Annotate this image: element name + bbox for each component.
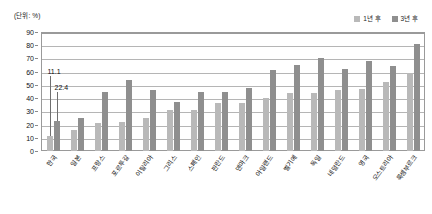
- x-axis-tick-label: 네덜란드: [327, 154, 346, 177]
- x-axis-tick-label: 덴마크: [235, 154, 251, 172]
- y-axis-tick: [35, 125, 38, 126]
- x-axis-tick-label: 벨기에: [283, 154, 299, 172]
- x-axis-label-cell: 그리스: [161, 152, 185, 212]
- y-axis-tick: [35, 138, 38, 139]
- x-axis-label-cell: 아일랜드: [257, 152, 281, 212]
- y-axis-tick-label: 90: [26, 29, 34, 36]
- x-axis-tick-label: 독일: [310, 154, 322, 168]
- y-axis-tick: [35, 45, 38, 46]
- y-axis-tick: [35, 85, 38, 86]
- x-axis-label-cell: 스페인: [185, 152, 209, 212]
- y-axis: 0102030405060708090: [0, 32, 38, 151]
- square-swatch-icon: [392, 16, 398, 22]
- y-axis-tick: [35, 72, 38, 73]
- y-axis-tick-label: 30: [26, 108, 34, 115]
- y-axis-tick-label: 50: [26, 81, 34, 88]
- x-axis-tick-label: 이탈리아: [135, 154, 154, 177]
- x-axis-label-cell: 한국: [41, 152, 65, 212]
- y-axis-tick-label: 0: [30, 148, 34, 155]
- gridline: [42, 99, 424, 100]
- chart-legend: 1년 후 3년 후: [354, 16, 418, 23]
- x-axis-label-cell: 룩셈부르크: [401, 152, 425, 212]
- x-axis-tick-label: 프랑스: [91, 154, 107, 172]
- x-axis-label-cell: 포르투갈: [113, 152, 137, 212]
- x-axis-label-cell: 이탈리아: [137, 152, 161, 212]
- y-axis-tick-label: 70: [26, 55, 34, 62]
- legend-item-series-1: 1년 후: [354, 16, 380, 23]
- x-axis-tick-label: 스페인: [187, 154, 203, 172]
- gridline: [42, 139, 424, 140]
- y-axis-tick: [35, 98, 38, 99]
- x-axis-tick-label: 핀란드: [211, 154, 227, 172]
- y-axis-tick-label: 80: [26, 42, 34, 49]
- x-axis-label-cell: 덴마크: [233, 152, 257, 212]
- x-axis-tick-label: 그리스: [163, 154, 179, 172]
- x-axis-tick-label: 아일랜드: [255, 154, 274, 177]
- gridline: [42, 126, 424, 127]
- plot-area: [41, 32, 425, 151]
- legend-label-series-2: 3년 후: [401, 16, 418, 23]
- y-axis-tick: [35, 58, 38, 59]
- gridline: [42, 33, 424, 34]
- gridline: [42, 59, 424, 60]
- x-axis-label-cell: 프랑스: [89, 152, 113, 212]
- square-swatch-icon: [354, 16, 360, 22]
- x-axis-label-cell: 영국: [353, 152, 377, 212]
- unit-label: (단위: %): [14, 10, 40, 20]
- x-axis-label-cell: 네덜란드: [329, 152, 353, 212]
- y-axis-tick-label: 40: [26, 95, 34, 102]
- x-axis-tick-label: 영국: [358, 154, 370, 168]
- y-axis-tick: [35, 32, 38, 33]
- data-label-annotation: 22.4: [55, 84, 69, 91]
- x-axis-tick-label: 일본: [70, 154, 82, 168]
- y-axis-tick-label: 20: [26, 121, 34, 128]
- annotation-leader-line: [50, 76, 51, 136]
- gridline: [42, 73, 424, 74]
- x-axis-label-cell: 벨기에: [281, 152, 305, 212]
- legend-label-series-1: 1년 후: [363, 16, 380, 23]
- x-axis-tick-label: 한국: [46, 154, 58, 168]
- y-axis-tick-label: 60: [26, 68, 34, 75]
- x-axis-label-cell: 오스트리아: [377, 152, 401, 212]
- x-axis-label-cell: 독일: [305, 152, 329, 212]
- data-label-annotation: 11.1: [48, 68, 61, 75]
- x-axis-labels: 한국일본프랑스포르투갈이탈리아그리스스페인핀란드덴마크아일랜드벨기에독일네덜란드…: [41, 152, 425, 212]
- x-axis-tick-label: 포르투갈: [111, 154, 130, 177]
- annotation-leader-line: [57, 92, 58, 121]
- y-axis-tick-label: 10: [26, 134, 34, 141]
- y-axis-tick: [35, 111, 38, 112]
- bar-chart: (단위: %) 1년 후 3년 후 0102030405060708090 11…: [0, 0, 432, 214]
- gridline: [42, 46, 424, 47]
- y-axis-tick: [35, 151, 38, 152]
- legend-item-series-2: 3년 후: [392, 16, 418, 23]
- x-axis-label-cell: 핀란드: [209, 152, 233, 212]
- x-axis-label-cell: 일본: [65, 152, 89, 212]
- gridline: [42, 86, 424, 87]
- gridline: [42, 112, 424, 113]
